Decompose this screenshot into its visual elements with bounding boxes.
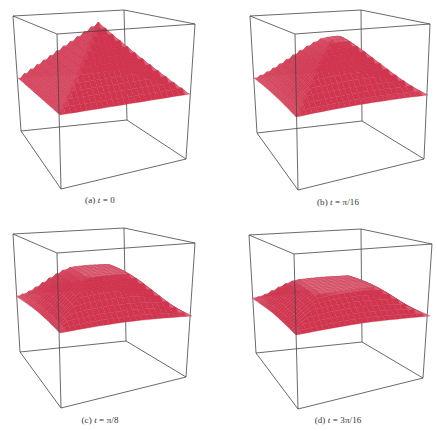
surface-plot-b [250, 10, 430, 190]
caption-label: (a) [85, 195, 95, 205]
caption-equals: = [100, 195, 110, 205]
surface-mesh [252, 276, 430, 335]
surface-mesh [18, 22, 190, 115]
caption-value: 3π/16 [340, 415, 361, 425]
caption-label: (b) [317, 197, 328, 207]
surface-plot-a [13, 10, 195, 189]
caption-value: π/16 [343, 197, 359, 207]
caption-d: (d) t = 3π/16 [315, 415, 362, 425]
surface-plot-c [13, 228, 195, 408]
caption-equals: = [333, 197, 343, 207]
caption-c: (c) t = π/8 [81, 415, 118, 425]
surface-mesh [16, 265, 192, 334]
surface-mesh [254, 36, 428, 117]
caption-a: (a) t = 0 [85, 195, 115, 205]
caption-equals: = [330, 415, 340, 425]
caption-value: π/8 [107, 415, 119, 425]
figure-canvas [0, 0, 437, 431]
caption-label: (c) [81, 415, 91, 425]
caption-b: (b) t = π/16 [317, 197, 359, 207]
caption-equals: = [97, 415, 107, 425]
caption-label: (d) [315, 415, 326, 425]
caption-value: 0 [110, 195, 115, 205]
surface-plot-d [249, 229, 432, 409]
